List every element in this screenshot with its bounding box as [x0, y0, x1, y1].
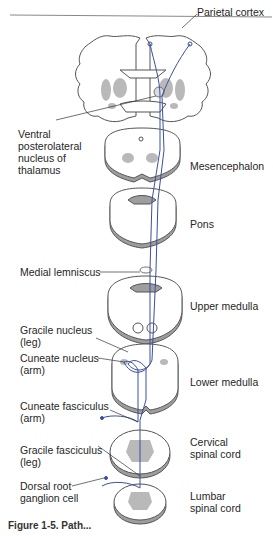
label-drg-sub: ganglion cell: [20, 492, 78, 505]
label-gracile-nucleus: Gracile nucleus: [20, 324, 92, 337]
label-vpl-line1: Ventral: [18, 128, 51, 141]
label-vpl-line2: posterolateral: [18, 140, 82, 153]
label-mesencephalon: Mesencephalon: [190, 160, 264, 173]
pons-section: [110, 188, 176, 248]
upper-medulla-section: [108, 276, 182, 344]
label-cervical-sub: spinal cord: [190, 448, 241, 461]
label-pons: Pons: [190, 218, 214, 231]
label-lumbar: Lumbar: [190, 490, 226, 503]
label-cuneate-fasciculus: Cuneate fasciculus: [20, 400, 109, 413]
label-gracile-fasciculus: Gracile fasciculus: [20, 444, 102, 457]
label-cuneate-nucleus: Cuneate nucleus: [20, 352, 99, 365]
label-gracile-nucleus-sub: (leg): [20, 336, 41, 349]
mesencephalon-section: [105, 128, 180, 182]
label-vpl-line4: thalamus: [18, 164, 61, 177]
cerebrum-section: [76, 36, 211, 122]
label-lower-medulla: Lower medulla: [190, 376, 258, 389]
label-vpl-line3: nucleus of: [18, 152, 66, 165]
label-parietal-cortex: Parietal cortex: [197, 6, 264, 19]
label-gracile-fasciculus-sub: (leg): [20, 456, 41, 469]
label-upper-medulla: Upper medulla: [190, 300, 258, 313]
label-lumbar-sub: spinal cord: [190, 502, 241, 515]
label-cervical: Cervical: [190, 436, 228, 449]
label-drg: Dorsal root: [20, 480, 71, 493]
label-cuneate-nucleus-sub: (arm): [20, 364, 45, 377]
label-cuneate-fasciculus-sub: (arm): [20, 412, 45, 425]
figure-caption: Figure 1-5. Path...: [8, 520, 91, 531]
label-medial-lemniscus: Medial lemniscus: [20, 266, 101, 279]
lumbar-cord-section: [114, 484, 166, 524]
